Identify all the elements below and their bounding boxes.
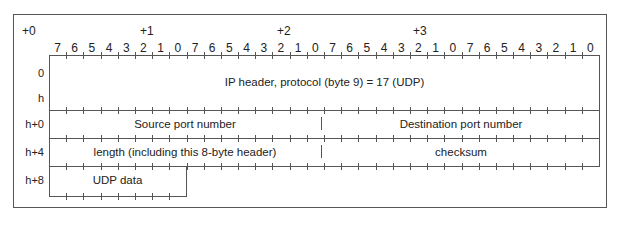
bit-label: 4 <box>376 41 393 55</box>
field-checksum: checksum <box>322 146 600 158</box>
bit-tick <box>101 163 102 170</box>
bit-tick <box>307 52 308 59</box>
bit-tick <box>118 193 119 200</box>
bit-tick <box>83 52 84 59</box>
bit-tick <box>135 193 136 200</box>
bit-label: 2 <box>272 41 289 55</box>
bit-tick <box>255 163 256 170</box>
bit-tick <box>393 135 394 142</box>
byte-offset-0: +0 <box>22 24 36 38</box>
bit-tick <box>169 107 170 114</box>
bit-tick <box>83 193 84 200</box>
bit-tick <box>324 107 325 114</box>
field-ip-header: IP header, protocol (byte 9) = 17 (UDP) <box>49 76 600 88</box>
bit-tick <box>135 107 136 114</box>
row-label-h: h <box>14 92 44 104</box>
bit-tick <box>169 135 170 142</box>
bit-tick <box>272 107 273 114</box>
bit-tick <box>255 135 256 142</box>
bit-tick <box>238 52 239 59</box>
bit-tick <box>582 135 583 142</box>
bit-tick <box>204 107 205 114</box>
bit-label: 2 <box>410 41 427 55</box>
bit-tick <box>221 52 222 59</box>
bit-tick <box>118 107 119 114</box>
row-label-h0: h+0 <box>14 118 44 130</box>
bit-tick <box>101 193 102 200</box>
bit-tick <box>307 107 308 114</box>
bit-tick <box>66 135 67 142</box>
bit-label: 5 <box>83 41 100 55</box>
bit-tick <box>410 135 411 142</box>
bit-tick <box>582 52 583 59</box>
bit-tick <box>152 52 153 59</box>
bit-tick <box>307 163 308 170</box>
row-label-0: 0 <box>14 67 44 79</box>
bit-tick <box>565 52 566 59</box>
bit-tick <box>444 135 445 142</box>
bit-tick <box>290 163 291 170</box>
bit-tick <box>427 107 428 114</box>
bit-tick <box>66 163 67 170</box>
bit-tick <box>83 107 84 114</box>
bit-tick <box>255 52 256 59</box>
field-udp-data: UDP data <box>49 174 186 186</box>
bit-label: 3 <box>118 41 135 55</box>
bit-label: 4 <box>238 41 255 55</box>
bit-tick <box>358 135 359 142</box>
bit-label: 6 <box>204 41 221 55</box>
bit-tick <box>496 107 497 114</box>
bit-label: 1 <box>427 41 444 55</box>
bit-tick <box>187 163 188 170</box>
bit-tick <box>444 52 445 59</box>
bit-tick <box>255 107 256 114</box>
byte-offset-3: +3 <box>413 24 427 38</box>
bit-tick <box>565 135 566 142</box>
bit-tick <box>479 107 480 114</box>
bit-tick <box>204 163 205 170</box>
bit-tick <box>479 163 480 170</box>
bit-tick <box>272 135 273 142</box>
field-source-port: Source port number <box>49 118 321 130</box>
bit-tick <box>83 135 84 142</box>
bit-label: 5 <box>221 41 238 55</box>
bit-tick <box>238 107 239 114</box>
bit-tick <box>135 52 136 59</box>
bit-label: 3 <box>393 41 410 55</box>
bit-label: 6 <box>341 41 358 55</box>
bit-label: 1 <box>152 41 169 55</box>
bit-tick <box>358 163 359 170</box>
bit-tick <box>479 52 480 59</box>
bit-tick <box>324 135 325 142</box>
bit-tick <box>101 135 102 142</box>
bit-tick <box>204 135 205 142</box>
bit-tick <box>187 135 188 142</box>
bit-tick <box>341 52 342 59</box>
bit-tick <box>565 107 566 114</box>
bit-label: 7 <box>187 41 204 55</box>
bit-tick <box>376 52 377 59</box>
bit-label: 4 <box>101 41 118 55</box>
byte-offset-2: +2 <box>277 24 291 38</box>
bit-label: 1 <box>565 41 582 55</box>
bit-tick <box>272 163 273 170</box>
bit-label: 6 <box>479 41 496 55</box>
bit-tick <box>496 52 497 59</box>
bit-tick <box>66 107 67 114</box>
bit-tick <box>496 135 497 142</box>
bit-tick <box>547 52 548 59</box>
bit-tick <box>341 135 342 142</box>
bit-tick <box>376 135 377 142</box>
bit-tick <box>118 52 119 59</box>
bit-tick <box>101 52 102 59</box>
bit-label: 3 <box>255 41 272 55</box>
bit-tick <box>513 135 514 142</box>
bit-tick <box>135 163 136 170</box>
bit-label: 0 <box>307 41 324 55</box>
bit-tick <box>169 163 170 170</box>
bit-tick <box>358 107 359 114</box>
bit-tick <box>238 163 239 170</box>
bit-tick <box>221 163 222 170</box>
bit-label: 3 <box>530 41 547 55</box>
bit-tick <box>530 163 531 170</box>
